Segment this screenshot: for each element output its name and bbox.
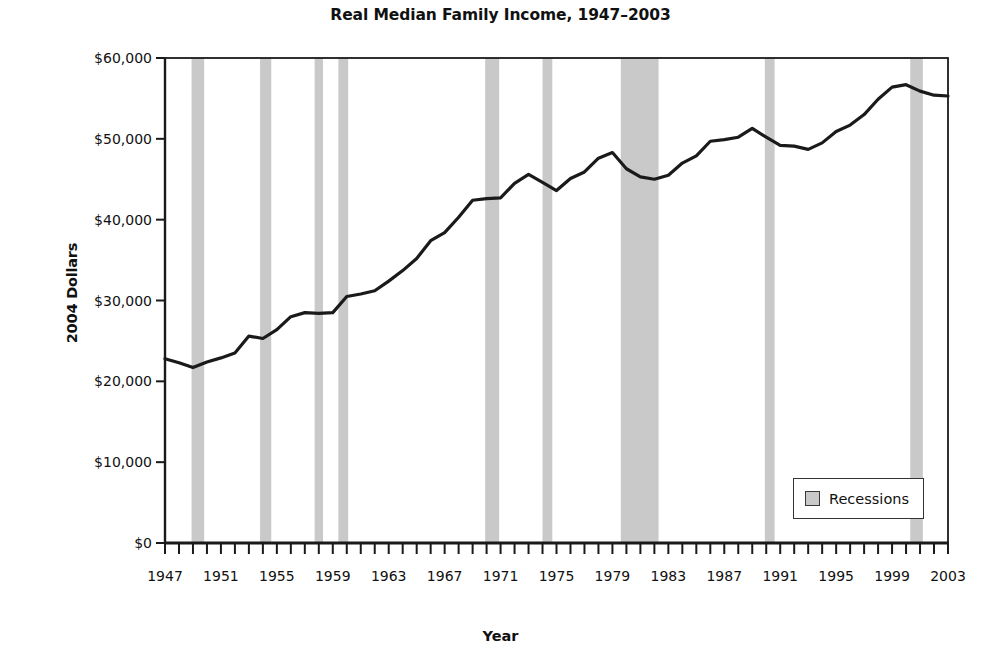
y-axis-tick-label: $10,000 — [62, 454, 152, 470]
x-axis-tick-label: 1987 — [694, 568, 754, 584]
x-axis-tick-label: 1991 — [750, 568, 810, 584]
y-axis-tick-label: $0 — [62, 535, 152, 551]
chart-figure: Real Median Family Income, 1947–2003 200… — [0, 0, 1001, 670]
x-axis-tick-label: 1971 — [471, 568, 531, 584]
recession-band — [765, 58, 775, 543]
x-axis-tick-label: 1979 — [582, 568, 642, 584]
x-axis-tick-label: 1959 — [303, 568, 363, 584]
x-axis-tick-label: 1963 — [359, 568, 419, 584]
recession-band — [621, 58, 659, 543]
recession-band — [192, 58, 205, 543]
x-axis-tick-label: 1983 — [638, 568, 698, 584]
x-axis-tick-label: 1999 — [862, 568, 922, 584]
x-axis-tick-label: 1951 — [191, 568, 251, 584]
recession-band — [315, 58, 323, 543]
y-axis-tick-label: $40,000 — [62, 212, 152, 228]
x-axis-tick-label: 1947 — [135, 568, 195, 584]
y-axis-tick-label: $50,000 — [62, 131, 152, 147]
legend: Recessions — [793, 478, 924, 519]
y-axis-tick-label: $60,000 — [62, 50, 152, 66]
x-axis-tick-label: 1975 — [527, 568, 587, 584]
legend-item-label: Recessions — [829, 491, 909, 507]
x-axis-tick-label: 1967 — [415, 568, 475, 584]
recession-swatch-icon — [805, 491, 820, 506]
x-axis-tick-label: 1955 — [247, 568, 307, 584]
x-axis-tick-label: 2003 — [918, 568, 978, 584]
recession-band — [910, 58, 923, 543]
axis-frame — [165, 58, 948, 543]
y-axis-tick-label: $20,000 — [62, 373, 152, 389]
x-axis-tick-label: 1995 — [806, 568, 866, 584]
recession-band — [260, 58, 271, 543]
y-axis-tick-label: $30,000 — [62, 293, 152, 309]
data-series-line — [165, 85, 948, 368]
recession-band — [485, 58, 499, 543]
recession-band — [543, 58, 553, 543]
